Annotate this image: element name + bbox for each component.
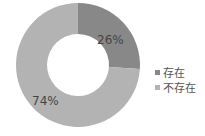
- slice-label-exists: 26%: [97, 33, 124, 47]
- legend-item-exists: 存在: [155, 65, 196, 79]
- legend-label: 不存在: [163, 79, 196, 95]
- donut-slices: [16, 3, 140, 127]
- legend-swatch: [155, 85, 160, 90]
- legend-label: 存在: [163, 64, 185, 80]
- legend: 存在 不存在: [155, 65, 196, 95]
- slice-label-not-exists: 74%: [32, 94, 59, 108]
- legend-item-not-exists: 不存在: [155, 80, 196, 94]
- legend-swatch: [155, 70, 160, 75]
